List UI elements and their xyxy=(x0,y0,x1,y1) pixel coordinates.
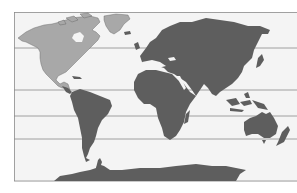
world-map xyxy=(0,0,297,193)
